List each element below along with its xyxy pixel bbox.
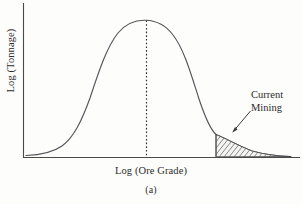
figure-caption: (a) bbox=[0, 184, 302, 195]
x-axis-label: Log (Ore Grade) bbox=[0, 165, 302, 176]
current-mining-annotation: Current Mining bbox=[251, 89, 283, 114]
grade-tonnage-figure: Log (Tonnage) Log (Ore Grade) (a) Curren… bbox=[0, 0, 302, 204]
y-axis-label: Log (Tonnage) bbox=[5, 18, 16, 104]
annotation-line-1: Current bbox=[251, 89, 283, 102]
current-mining-arrow bbox=[232, 111, 250, 133]
annotation-line-2: Mining bbox=[251, 102, 283, 115]
